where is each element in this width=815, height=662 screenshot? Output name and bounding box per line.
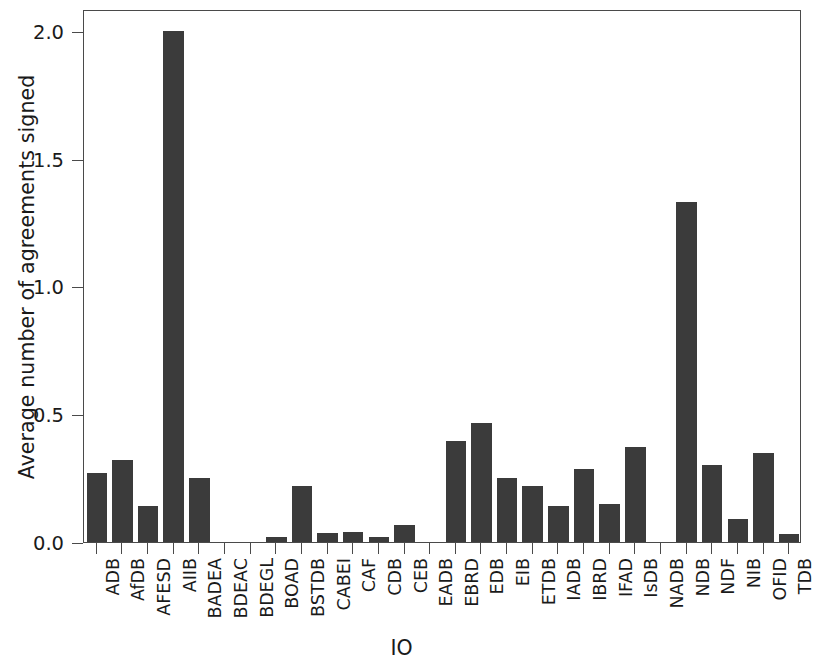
x-axis-tick-mark (327, 543, 328, 554)
bar (497, 478, 518, 542)
y-axis-tick-label: 2.0 (0, 20, 64, 43)
x-axis-tick-label: NDB (693, 558, 713, 597)
x-axis-tick-label: BDEGL (257, 558, 277, 618)
x-axis-tick-label: EADB (436, 558, 456, 607)
x-axis-tick-mark (711, 543, 712, 554)
bar-series (84, 11, 800, 542)
x-axis-tick-mark (583, 543, 584, 554)
bar (702, 465, 723, 542)
x-axis-tick-mark (660, 543, 661, 554)
y-axis-tick-label: 1.0 (0, 276, 64, 299)
bar (446, 441, 467, 542)
x-axis-tick-label: NDF (718, 558, 738, 595)
x-axis-tick-label: AIIB (180, 558, 200, 592)
x-axis-tick-label: OFID (770, 558, 790, 600)
x-axis-tick-mark (301, 543, 302, 554)
x-axis-tick-label: AFESD (154, 558, 174, 616)
x-axis-tick-label: TDB (795, 558, 815, 594)
y-axis-tick-label: 1.5 (0, 148, 64, 171)
bar (779, 534, 800, 542)
x-axis-tick-label: CAF (359, 558, 379, 592)
bar (343, 532, 364, 542)
bar (676, 202, 697, 542)
x-axis-title: IO (0, 636, 803, 660)
x-axis-tick-label: EBRD (462, 558, 482, 607)
x-axis-tick-mark (96, 543, 97, 554)
bar (369, 537, 390, 542)
x-axis-tick-label: IBRD (590, 558, 610, 601)
bar (292, 486, 313, 542)
bar (471, 423, 492, 542)
bar (599, 504, 620, 542)
y-axis-tick-mark (72, 287, 83, 288)
y-axis-tick-mark (72, 415, 83, 416)
x-axis-tick-mark (378, 543, 379, 554)
x-axis-tick-label: CABEI (334, 558, 354, 610)
x-axis-tick-label: ADB (103, 558, 123, 595)
x-axis-tick-mark (455, 543, 456, 554)
x-axis-tick-mark (147, 543, 148, 554)
bar (753, 453, 774, 542)
x-axis-tick-mark (404, 543, 405, 554)
x-axis-tick-label: NIB (744, 558, 764, 588)
x-axis-tick-mark (634, 543, 635, 554)
x-axis-tick-mark (250, 543, 251, 554)
x-axis-tick-mark (763, 543, 764, 554)
x-axis-tick-mark (173, 543, 174, 554)
bar (112, 460, 133, 542)
y-axis-tick-mark (72, 543, 83, 544)
bar (728, 519, 749, 542)
bar (548, 506, 569, 542)
x-axis-tick-label: IsDB (641, 558, 661, 598)
x-axis-tick-label: IADB (564, 558, 584, 601)
x-axis-tick-mark (788, 543, 789, 554)
x-axis-tick-mark (275, 543, 276, 554)
x-axis-tick-label: NADB (667, 558, 687, 609)
x-axis-tick-mark (506, 543, 507, 554)
x-axis-tick-mark (352, 543, 353, 554)
x-axis-tick-mark (198, 543, 199, 554)
bar (574, 469, 595, 542)
x-axis-tick-mark (480, 543, 481, 554)
y-axis-tick-label: 0.5 (0, 404, 64, 427)
y-axis-tick-mark (72, 160, 83, 161)
x-axis-tick-label: CEB (411, 558, 431, 593)
bar (394, 525, 415, 542)
x-axis-tick-label: AfDB (128, 558, 148, 601)
x-axis-tick-label: EIB (513, 558, 533, 586)
x-axis-tick-mark (532, 543, 533, 554)
bar (266, 537, 287, 542)
x-axis-tick-label: IFAD (616, 558, 636, 597)
bar (625, 447, 646, 542)
y-axis-tick-label: 0.0 (0, 532, 64, 555)
x-axis-tick-mark (609, 543, 610, 554)
bar (189, 478, 210, 542)
plot-area (83, 10, 801, 543)
x-axis-tick-mark (557, 543, 558, 554)
x-axis-tick-label: BSTDB (308, 558, 328, 617)
bar (522, 486, 543, 542)
bar (138, 506, 159, 542)
x-axis-tick-label: BADEA (205, 558, 225, 618)
x-axis-tick-mark (737, 543, 738, 554)
bar (317, 533, 338, 542)
x-axis-tick-label: CDB (385, 558, 405, 596)
x-axis-tick-label: EDB (487, 558, 507, 595)
x-axis-tick-label: ETDB (539, 558, 559, 605)
x-axis-tick-mark (224, 543, 225, 554)
x-axis-tick-label: BOAD (282, 558, 302, 609)
bar (87, 473, 108, 542)
x-axis-tick-mark (429, 543, 430, 554)
x-axis-tick-label: BDEAC (231, 558, 251, 618)
x-axis-tick-mark (686, 543, 687, 554)
bar (163, 31, 184, 542)
x-axis-tick-mark (121, 543, 122, 554)
y-axis-tick-mark (72, 32, 83, 33)
